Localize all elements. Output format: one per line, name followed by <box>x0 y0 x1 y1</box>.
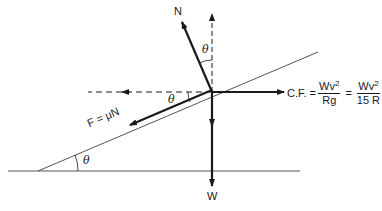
cf-prefix: C.F. = <box>287 88 316 99</box>
normal-force-arrow <box>182 22 212 92</box>
cf-equals: = <box>345 88 351 99</box>
cf-numerator-2: Wv <box>358 80 374 92</box>
centrifugal-force-equation: C.F. = Wv2 Rg = Wv2 15 R <box>287 81 382 106</box>
cf-numerator-1: Wv <box>319 80 335 92</box>
theta-label-mid: θ <box>168 94 175 105</box>
theta-arc-top <box>199 60 212 63</box>
theta-label-top: θ <box>202 44 209 55</box>
incline-line <box>38 52 318 171</box>
theta-label-base: θ <box>83 155 90 166</box>
cf-exponent-1: 2 <box>335 79 339 88</box>
cf-exponent-2: 2 <box>374 79 378 88</box>
theta-arc-base <box>75 155 78 171</box>
cf-fraction-2: Wv2 15 R <box>357 81 380 106</box>
cf-fraction-1: Wv2 Rg <box>318 81 340 106</box>
normal-force-label: N <box>174 6 182 17</box>
cf-denominator-1: Rg <box>322 94 336 106</box>
cf-denominator-2: 15 R <box>357 94 380 106</box>
weight-label: W <box>207 191 217 202</box>
